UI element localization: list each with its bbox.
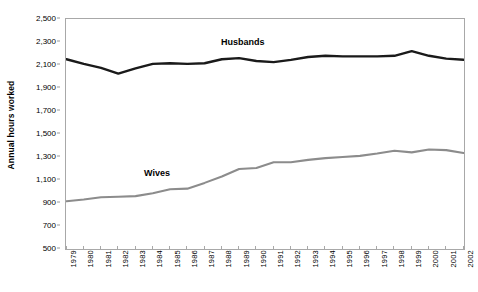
x-axis-tick-label: 1993 xyxy=(311,250,320,268)
x-axis-tick-label: 1988 xyxy=(224,250,233,268)
x-axis-tick-mark xyxy=(255,246,256,249)
x-axis-tick-label: 1983 xyxy=(138,250,147,268)
x-axis-tick-mark xyxy=(100,246,101,249)
x-axis-tick-label: 1996 xyxy=(362,250,371,268)
x-axis-tick-mark xyxy=(307,246,308,249)
y-axis-tick-label: 1,900 xyxy=(20,83,56,92)
y-axis-tick-label: 2,500 xyxy=(20,14,56,23)
x-axis-tick-mark xyxy=(221,246,222,249)
series-line-wives xyxy=(67,150,464,202)
y-axis-tick-mark xyxy=(57,87,60,88)
x-axis-tick-label: 1992 xyxy=(293,250,302,268)
y-axis-tick-label: 1,500 xyxy=(20,129,56,138)
x-axis-tick-mark xyxy=(135,246,136,249)
y-axis-tick-mark xyxy=(57,202,60,203)
y-axis-tick-mark xyxy=(57,248,60,249)
series-canvas xyxy=(66,19,464,249)
x-axis-tick-label: 1999 xyxy=(414,250,423,268)
x-axis-tick-mark xyxy=(445,246,446,249)
x-axis-tick-mark xyxy=(393,246,394,249)
x-axis-tick-label: 1998 xyxy=(397,250,406,268)
x-axis-tick-label: 1986 xyxy=(190,250,199,268)
x-axis-tick-label: 1980 xyxy=(86,250,95,268)
x-axis-tick-mark xyxy=(204,246,205,249)
x-axis-tick-label: 1989 xyxy=(242,250,251,268)
plot-area xyxy=(65,18,465,250)
x-axis-tick-label: 1985 xyxy=(173,250,182,268)
x-axis-tick-mark xyxy=(169,246,170,249)
x-axis-tick-labels: 1979198019811982198319841985198619871988… xyxy=(65,250,465,292)
x-axis-tick-mark xyxy=(273,246,274,249)
x-axis-tick-mark xyxy=(376,246,377,249)
y-axis-tick-label: 2,300 xyxy=(20,37,56,46)
x-axis-tick-label: 1997 xyxy=(380,250,389,268)
x-axis-tick-label: 2001 xyxy=(449,250,458,268)
x-axis-tick-mark xyxy=(428,246,429,249)
y-axis-tick-label: 2,100 xyxy=(20,60,56,69)
y-axis-tick-label: 900 xyxy=(20,198,56,207)
x-axis-tick-label: 1987 xyxy=(207,250,216,268)
x-axis-tick-mark xyxy=(66,246,67,249)
x-axis-tick-label: 1982 xyxy=(121,250,130,268)
x-axis-tick-mark xyxy=(83,246,84,249)
y-axis-tick-label: 1,100 xyxy=(20,175,56,184)
x-axis-tick-label: 1990 xyxy=(259,250,268,268)
y-axis-tick-mark xyxy=(57,133,60,134)
x-axis-tick-label: 2000 xyxy=(431,250,440,268)
y-axis-tick-mark xyxy=(57,179,60,180)
y-axis-tick-mark xyxy=(57,41,60,42)
x-axis-tick-label: 1981 xyxy=(104,250,113,268)
x-axis-tick-mark xyxy=(238,246,239,249)
y-axis-title: Annual hours worked xyxy=(0,0,22,250)
y-axis-tick-labels: 2,5002,3002,1001,9001,7001,5001,3001,100… xyxy=(20,0,60,266)
x-axis-tick-mark xyxy=(342,246,343,249)
x-axis-tick-label: 1979 xyxy=(69,250,78,268)
series-label-wives: Wives xyxy=(144,168,170,178)
series-label-husbands: Husbands xyxy=(221,37,265,47)
y-axis-title-text: Annual hours worked xyxy=(6,81,16,170)
y-axis-tick-mark xyxy=(57,225,60,226)
x-axis-tick-label: 1995 xyxy=(345,250,354,268)
x-axis-tick-label: 2002 xyxy=(466,250,475,268)
series-line-husbands xyxy=(67,51,464,73)
y-axis-tick-label: 700 xyxy=(20,221,56,230)
y-axis-tick-label: 500 xyxy=(20,244,56,253)
x-axis-tick-mark xyxy=(324,246,325,249)
y-axis-tick-mark xyxy=(57,18,60,19)
x-axis-tick-label: 1994 xyxy=(328,250,337,268)
x-axis-tick-mark xyxy=(411,246,412,249)
x-axis-tick-mark xyxy=(186,246,187,249)
x-axis-tick-mark xyxy=(290,246,291,249)
x-axis-tick-mark xyxy=(117,246,118,249)
y-axis-tick-mark xyxy=(57,110,60,111)
y-axis-tick-mark xyxy=(57,156,60,157)
x-axis-tick-label: 1991 xyxy=(276,250,285,268)
x-axis-tick-mark xyxy=(463,246,464,249)
y-axis-tick-mark xyxy=(57,64,60,65)
y-axis-tick-label: 1,300 xyxy=(20,152,56,161)
y-axis-tick-label: 1,700 xyxy=(20,106,56,115)
x-axis-tick-mark xyxy=(152,246,153,249)
x-axis-tick-mark xyxy=(359,246,360,249)
x-axis-tick-label: 1984 xyxy=(155,250,164,268)
line-chart: Annual hours worked 2,5002,3002,1001,900… xyxy=(0,0,478,292)
